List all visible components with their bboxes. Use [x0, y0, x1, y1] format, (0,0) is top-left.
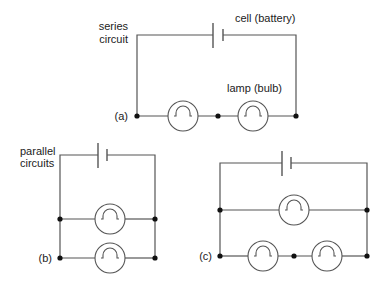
cell-battery-symbol	[282, 151, 291, 176]
label-series: series	[99, 20, 129, 32]
junction-node	[364, 253, 369, 258]
junction-node	[293, 113, 298, 118]
lamp-symbol	[248, 241, 278, 271]
junction-node	[134, 113, 139, 118]
lamp-symbol	[168, 101, 198, 131]
cell-battery-symbol	[98, 143, 107, 168]
circuit-diagram: series circuit cell (battery) lamp (bulb…	[0, 0, 390, 283]
cell-battery-symbol	[213, 23, 223, 48]
label-parallel: parallel	[20, 145, 55, 157]
junction-node	[152, 216, 157, 221]
label-circuits: circuits	[20, 157, 55, 169]
junction-node	[57, 255, 62, 260]
lamp-symbol	[312, 241, 342, 271]
junction-node	[217, 207, 222, 212]
junction-node	[291, 253, 296, 258]
label-b: (b)	[39, 252, 52, 264]
lamp-symbol	[238, 101, 268, 131]
label-circuit: circuit	[99, 33, 128, 45]
junction-node	[217, 253, 222, 258]
series-circuit-a: series circuit cell (battery) lamp (bulb…	[99, 12, 299, 131]
lamp-symbol	[95, 204, 125, 234]
label-a: (a)	[115, 110, 128, 122]
label-lamp-bulb: lamp (bulb)	[227, 82, 282, 94]
label-c: (c)	[199, 250, 212, 262]
junction-node	[215, 113, 220, 118]
junction-node	[152, 255, 157, 260]
label-cell-battery: cell (battery)	[235, 12, 296, 24]
junction-node	[364, 207, 369, 212]
parallel-circuit-b: parallel circuits (b)	[20, 143, 158, 273]
parallel-circuit-c: (c)	[199, 151, 369, 271]
lamp-symbol	[95, 243, 125, 273]
junction-node	[57, 216, 62, 221]
lamp-symbol	[279, 195, 309, 225]
